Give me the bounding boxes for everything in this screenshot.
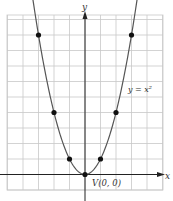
function-label: y = x² — [127, 85, 152, 94]
parabola-chart: y x y = x² V(0, 0) — [0, 0, 173, 201]
data-point — [51, 110, 56, 115]
data-point — [82, 172, 87, 177]
data-point — [67, 156, 72, 161]
data-point — [129, 32, 134, 37]
data-point — [36, 32, 41, 37]
axes — [0, 11, 165, 201]
y-axis-label: y — [81, 2, 88, 12]
data-point — [113, 110, 118, 115]
vertex-label: V(0, 0) — [92, 178, 121, 188]
data-point — [98, 156, 103, 161]
x-axis-label: x — [165, 171, 170, 181]
